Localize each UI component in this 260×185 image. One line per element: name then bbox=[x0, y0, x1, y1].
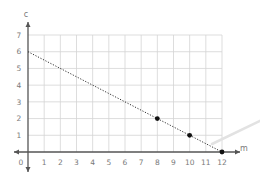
x-tick-label: 1 bbox=[42, 158, 47, 167]
x-tick-label: 5 bbox=[106, 158, 111, 167]
x-tick-label: 6 bbox=[123, 158, 128, 167]
x-axis-label: m bbox=[240, 144, 248, 153]
x-tick-label: 2 bbox=[58, 158, 63, 167]
x-tick-label: 3 bbox=[74, 158, 79, 167]
y-tick-label: 1 bbox=[17, 131, 22, 140]
y-tick-label: 7 bbox=[17, 31, 22, 40]
y-tick-label: 5 bbox=[17, 64, 22, 73]
x-tick-label: 10 bbox=[185, 158, 195, 167]
data-point bbox=[220, 150, 225, 155]
y-axis-arrow-down bbox=[26, 167, 31, 172]
chart: 1234567891011121234567 m c 0 bbox=[0, 0, 260, 185]
x-axis-arrow-left bbox=[14, 150, 19, 155]
x-tick-label: 11 bbox=[201, 158, 211, 167]
y-axis-arrow-up bbox=[26, 22, 31, 27]
y-axis-label: c bbox=[24, 10, 28, 19]
x-tick-label: 9 bbox=[171, 158, 176, 167]
x-tick-label: 4 bbox=[90, 158, 95, 167]
y-tick-label: 3 bbox=[17, 98, 22, 107]
origin-label: 0 bbox=[19, 158, 24, 167]
y-tick-label: 2 bbox=[17, 114, 22, 123]
data-point bbox=[187, 133, 192, 138]
data-point bbox=[155, 116, 160, 121]
x-tick-label: 8 bbox=[155, 158, 160, 167]
x-tick-label: 12 bbox=[217, 158, 227, 167]
grid bbox=[28, 35, 222, 152]
x-tick-label: 7 bbox=[139, 158, 144, 167]
tick-labels: 1234567891011121234567 bbox=[17, 31, 227, 167]
y-tick-label: 6 bbox=[17, 47, 22, 56]
y-tick-label: 4 bbox=[17, 81, 22, 90]
annotation-stroke bbox=[212, 120, 260, 144]
